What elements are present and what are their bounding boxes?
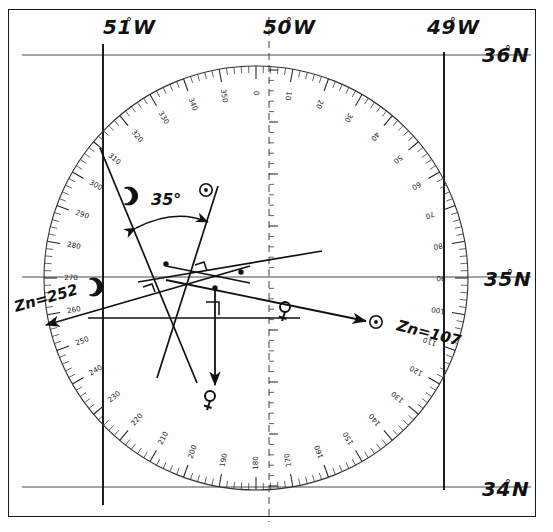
svg-text:N: N [514, 267, 531, 291]
rose-degree-label: 160 [312, 444, 325, 460]
longitude-label-1: 50°W [263, 15, 316, 39]
assumed-position-dot-1 [163, 261, 168, 266]
latitude-label-0: 36°N [482, 43, 529, 67]
rose-degree-label: 220 [129, 411, 145, 428]
rose-degree-label: 50 [391, 153, 404, 166]
svg-text:°: ° [450, 15, 456, 29]
rose-degree-label: 40 [369, 130, 382, 143]
compass-rose-ticks [44, 66, 468, 490]
rose-degree-label: 30 [343, 112, 356, 125]
right-angle-moon [143, 284, 155, 292]
rose-degree-label: 90 [436, 274, 446, 283]
svg-text:°: ° [505, 43, 511, 57]
plotting-sheet-page: 0102030405060708090100110120130140150160… [0, 0, 553, 532]
latitude-label-2: 34°N [482, 477, 529, 501]
latitude-label-1: 35°N [484, 267, 531, 291]
svg-text:°: ° [126, 15, 132, 29]
rose-degree-label: 120 [407, 363, 424, 378]
rose-degree-label: 80 [433, 241, 444, 252]
venus-glyph-bottom [204, 391, 215, 410]
svg-text:N: N [512, 43, 529, 67]
text-annotations: 51°W50°W49°W36°N35°N34°NZn=252Zn=10735° [11, 15, 531, 501]
svg-text:N: N [512, 477, 529, 501]
rose-degree-label: 230 [106, 388, 123, 404]
rose-degree-label: 130 [389, 389, 406, 405]
rose-degree-label: 320 [130, 128, 146, 145]
assumed-position-dot-2 [212, 285, 217, 290]
svg-text:°: ° [505, 477, 511, 491]
rose-degree-label: 70 [424, 209, 436, 221]
rose-degree-label: 330 [157, 109, 172, 126]
rose-degree-label: 310 [106, 151, 123, 167]
moon-glyph-left [90, 278, 103, 296]
rose-degree-label: 250 [74, 334, 90, 347]
svg-text:W: W [133, 15, 156, 39]
rose-degree-label: 140 [366, 412, 382, 429]
svg-text:°: ° [286, 15, 292, 29]
rose-degree-label: 210 [156, 429, 171, 446]
svg-text:W: W [457, 15, 480, 39]
moon-glyph-top [125, 187, 138, 205]
angle-between-label: 35° [151, 190, 181, 209]
assumed-position-dot-3 [238, 269, 243, 274]
rose-degree-label: 20 [314, 99, 326, 111]
rose-degree-label: 60 [410, 180, 423, 193]
rose-degree-label: 200 [186, 443, 199, 459]
rose-degree-label: 190 [218, 452, 229, 467]
right-angle-sun [195, 262, 207, 271]
rose-degree-label: 10 [283, 91, 294, 102]
rose-degree-label: 150 [340, 430, 355, 447]
rose-degree-label: 180 [251, 456, 260, 470]
angle-arc-path [136, 216, 208, 228]
rose-degree-label: 260 [66, 304, 81, 315]
svg-text:°: ° [507, 267, 513, 281]
sun-azimuth-ray [166, 280, 366, 321]
rose-degree-label: 240 [87, 362, 104, 377]
moon-line-of-position [100, 148, 197, 383]
right-angle-venus [206, 302, 219, 315]
longitude-label-2: 49°W [426, 15, 480, 39]
rose-degree-label: 340 [187, 96, 200, 112]
angle-arc-35 [136, 216, 208, 228]
longitude-label-0: 51°W [103, 15, 156, 39]
sun-line-of-position [157, 186, 218, 378]
sun-glyph-right [370, 316, 382, 328]
grid-lines [22, 17, 531, 522]
rose-degree-label: 280 [66, 240, 81, 251]
rose-degree-label: 290 [74, 208, 90, 221]
rose-degree-label: 350 [219, 88, 230, 103]
chart-canvas: 0102030405060708090100110120130140150160… [0, 0, 553, 532]
celestial-body-glyphs [90, 184, 383, 410]
rose-degree-label: 170 [282, 452, 293, 467]
sun-glyph-top [200, 184, 212, 196]
compass-rose-numbers: 0102030405060708090100110120130140150160… [64, 88, 445, 470]
svg-text:W: W [293, 15, 316, 39]
rose-degree-label: 0 [252, 91, 261, 96]
